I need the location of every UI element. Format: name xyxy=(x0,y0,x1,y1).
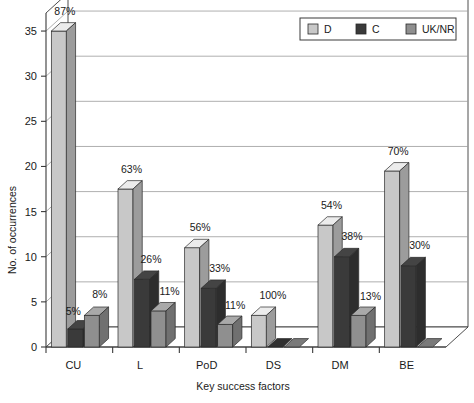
data-label: 33% xyxy=(209,262,230,274)
y-tick-label: 30 xyxy=(25,70,37,82)
legend-swatch xyxy=(406,24,416,34)
data-label: 54% xyxy=(321,199,342,211)
data-label: 8% xyxy=(92,288,107,300)
legend-swatch xyxy=(308,24,318,34)
y-axis: 05101520253035 xyxy=(25,25,46,353)
data-label: 11% xyxy=(225,299,245,311)
chart-legend: DCUK/NR xyxy=(300,18,456,40)
data-label: 13% xyxy=(360,290,381,302)
y-tick-label: 35 xyxy=(25,25,37,37)
x-axis-title: Key success factors xyxy=(196,380,289,392)
data-label: 63% xyxy=(121,163,142,175)
y-tick-label: 0 xyxy=(31,341,37,353)
data-label: 56% xyxy=(190,221,211,233)
y-tick-label: 15 xyxy=(25,206,37,218)
x-axis: CULPoDDSDMBE xyxy=(46,347,414,371)
x-tick-label: CU xyxy=(65,359,81,371)
x-tick-label: PoD xyxy=(196,359,217,371)
legend-item-uk-nr: UK/NR xyxy=(406,23,455,35)
bar-DM-UK-NR xyxy=(351,307,375,347)
data-label: 38% xyxy=(341,230,362,242)
legend-label: UK/NR xyxy=(422,23,455,35)
y-tick-label: 10 xyxy=(25,251,37,263)
bar-BE-C xyxy=(401,257,425,347)
x-tick-label: DS xyxy=(266,359,281,371)
bar-DS-D xyxy=(251,307,275,347)
x-tick-label: BE xyxy=(399,359,414,371)
bar-chart: 05101520253035 CULPoDDSDMBE 87%5%8%63%26… xyxy=(0,0,474,403)
data-label: 11% xyxy=(159,285,179,297)
y-tick-label: 5 xyxy=(31,296,37,308)
bar-CU-UK-NR xyxy=(84,307,108,347)
data-label: 87% xyxy=(54,5,75,17)
bar-CU-D xyxy=(51,23,75,347)
y-tick-label: 20 xyxy=(25,160,37,172)
x-tick-label: L xyxy=(137,359,143,371)
legend-label: D xyxy=(324,23,332,35)
data-label: 70% xyxy=(388,145,409,157)
legend-label: C xyxy=(372,23,380,35)
data-label: 100% xyxy=(259,289,286,301)
chart-canvas: 05101520253035 CULPoDDSDMBE 87%5%8%63%26… xyxy=(0,0,474,403)
legend-swatch xyxy=(356,24,366,34)
y-axis-title: No. of occurrences xyxy=(6,186,18,274)
x-tick-label: DM xyxy=(331,359,348,371)
bar-L-UK-NR xyxy=(151,302,175,347)
data-label: 26% xyxy=(140,253,161,265)
bar-PoD-UK-NR xyxy=(218,316,242,347)
data-label: 30% xyxy=(409,239,430,251)
y-tick-label: 25 xyxy=(25,115,37,127)
data-label: 5% xyxy=(66,305,81,317)
